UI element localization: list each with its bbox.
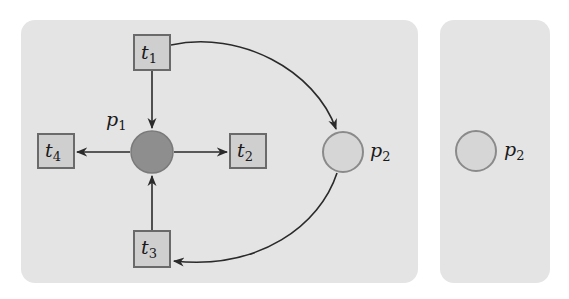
arc-p2-to-t3 <box>174 173 337 262</box>
transition-t3: t3 <box>134 231 170 267</box>
place-p2: p2 <box>323 132 390 172</box>
place-p2-label: p2 <box>370 139 390 164</box>
place-p1-label: p1 <box>106 108 126 133</box>
petri-net-diagram: t1 t2 t3 t4 p1 p2 p2 <box>0 0 569 299</box>
transition-t4: t4 <box>38 134 74 168</box>
arc-t1-to-p2 <box>171 42 336 129</box>
place-p1: p1 <box>106 108 173 173</box>
transition-t1: t1 <box>134 35 170 70</box>
right-place-p2-label: p2 <box>504 138 524 163</box>
transition-t2: t2 <box>230 134 266 168</box>
right-place-p2: p2 <box>456 131 524 171</box>
